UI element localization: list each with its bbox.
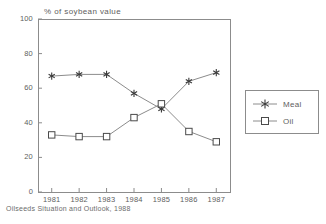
y-tick-label: 100 [11, 14, 33, 23]
x-tick-label: 1984 [121, 195, 147, 204]
legend-item-meal: Meal [246, 96, 318, 112]
chart-figure: % of soybean value 020406080100 19811982… [0, 0, 326, 224]
y-tick-label: 80 [11, 49, 33, 58]
legend-label-meal: Meal [283, 100, 302, 109]
chart-footnote: Oilseeds Situation and Outlook, 1988 [6, 205, 131, 212]
x-tick-label: 1987 [203, 195, 229, 204]
y-tick-label: 0 [11, 187, 33, 196]
x-tick-label: 1986 [176, 195, 202, 204]
legend-marker-square-icon [252, 114, 278, 128]
y-tick-label: 20 [11, 152, 33, 161]
x-tick-label: 1982 [66, 195, 92, 204]
y-tick-label: 40 [11, 118, 33, 127]
x-tick-label: 1983 [94, 195, 120, 204]
y-tick-label: 60 [11, 83, 33, 92]
legend-marker-asterisk-icon [252, 97, 278, 111]
legend-item-oil: Oil [246, 113, 318, 129]
x-tick-label: 1981 [39, 195, 65, 204]
x-tick-label: 1985 [148, 195, 174, 204]
legend-label-oil: Oil [283, 117, 294, 126]
chart-legend: Meal Oil [245, 90, 319, 134]
